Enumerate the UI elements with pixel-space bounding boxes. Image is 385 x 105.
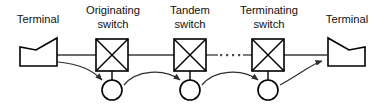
tandem-switch-node[interactable] <box>174 39 206 100</box>
diagram-labels: Terminal Originating switch Tandem switc… <box>17 4 368 30</box>
label-terminal-right: Terminal <box>326 13 368 25</box>
ellipsis-dots <box>220 54 240 56</box>
circle-originating[interactable] <box>102 80 122 100</box>
label-originating-switch-line2: switch <box>97 18 128 30</box>
flow-arrow-originating-to-tandem <box>124 72 180 85</box>
terminal-left-node[interactable] <box>20 38 57 66</box>
circle-tandem[interactable] <box>180 80 200 100</box>
terminal-right-node[interactable] <box>328 38 365 66</box>
label-originating-switch-line1: Originating <box>86 4 140 16</box>
label-terminal-left: Terminal <box>17 13 59 25</box>
ellipsis-dot <box>220 54 222 56</box>
diagram-canvas: Terminal Originating switch Tandem switc… <box>0 0 385 105</box>
ellipsis-dot <box>226 54 228 56</box>
label-tandem-switch-line2: switch <box>174 18 205 30</box>
terminal-right-shape[interactable] <box>328 38 365 66</box>
circle-terminating[interactable] <box>258 80 278 100</box>
flow-arrow-terminating-to-terminal-right <box>280 61 322 85</box>
label-tandem-switch-line1: Tandem <box>170 4 210 16</box>
label-terminating-switch-line1: Terminating <box>240 4 298 16</box>
flow-arrow-tandem-to-terminating <box>202 72 258 85</box>
label-terminating-switch-line2: switch <box>253 18 284 30</box>
originating-switch-node[interactable] <box>96 39 128 100</box>
ellipsis-dot <box>238 54 240 56</box>
terminal-left-shape[interactable] <box>20 38 57 66</box>
call-path-diagram: Terminal Originating switch Tandem switc… <box>0 0 385 105</box>
terminating-switch-node[interactable] <box>252 39 284 100</box>
ellipsis-dot <box>232 54 234 56</box>
